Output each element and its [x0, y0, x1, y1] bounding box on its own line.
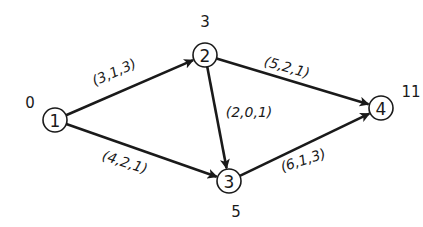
node-label: 2: [200, 46, 211, 66]
edge-2-3: [207, 67, 226, 168]
node-4: 411: [369, 83, 421, 120]
edge-label-1-2: (3,1,3): [89, 55, 138, 89]
node-time-label: 11: [401, 83, 420, 101]
node-label: 4: [376, 99, 387, 119]
node-2: 23: [193, 13, 217, 67]
edge-label-2-3: (2,0,1): [226, 104, 273, 120]
node-time-label: 5: [231, 203, 241, 221]
node-3: 35: [217, 169, 241, 221]
node-label: 1: [50, 111, 61, 131]
edge-label-2-4: (5,2,1): [262, 53, 311, 81]
node-1: 10: [25, 94, 67, 132]
node-label: 3: [224, 172, 235, 192]
edge-label-3-4: (6,1,3): [278, 145, 327, 175]
network-diagram: (3,1,3)(4,2,1)(2,0,1)(5,2,1)(6,1,3) 1023…: [0, 0, 423, 227]
node-time-label: 0: [25, 94, 35, 112]
node-time-label: 3: [200, 13, 210, 31]
